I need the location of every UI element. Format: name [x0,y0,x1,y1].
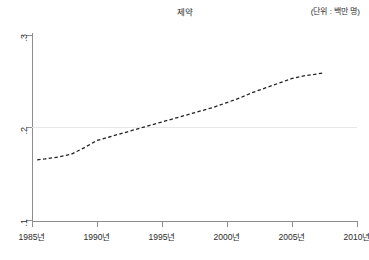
x-tick-label: 1995년 [149,230,176,242]
x-axis-line [32,221,358,222]
chart-screenshot: 제약 (단위 : 백만 명) .3.2.1 1985년1990년1995년200… [0,0,369,260]
x-tick [97,222,98,227]
x-tick [357,222,358,227]
y-tick-label: .1 [0,214,24,226]
unit-label: (단위 : 백만 명) [311,5,360,16]
x-tick-label: 1985년 [19,230,46,242]
x-tick [292,222,293,227]
y-tick-label-text: .3 [19,34,29,58]
gridline-y [32,127,357,128]
y-tick-label: .3 [0,29,24,41]
x-tick [162,222,163,227]
x-tick-label: 2010년 [344,230,369,242]
y-tick-label-text: .2 [19,127,29,151]
x-tick [227,222,228,227]
y-tick-label: .2 [0,122,24,134]
series-line-pharmaceutical [37,73,323,160]
x-tick [32,222,33,227]
x-tick-label: 1990년 [84,230,111,242]
x-tick-label: 2005년 [279,230,306,242]
x-tick-label: 2000년 [214,230,241,242]
